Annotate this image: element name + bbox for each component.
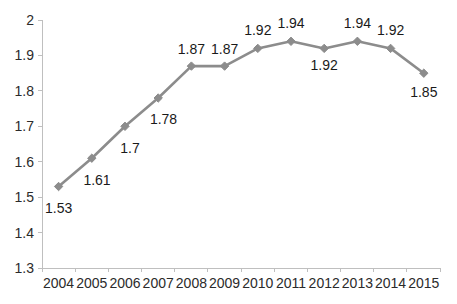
data-point-label: 1.92 [244,22,271,38]
data-point-label: 1.85 [410,84,437,100]
data-point-label: 1.92 [311,57,338,73]
x-tick-label: 2014 [375,275,406,291]
data-point-label: 1.94 [277,15,304,31]
line-chart: 21.91.81.71.61.51.41.3 20042005200620072… [0,0,457,304]
data-point-marker [320,44,328,52]
y-tick-label: 2 [26,12,34,28]
y-tick-label: 1.6 [15,154,35,170]
x-tick-label: 2005 [76,275,107,291]
data-point-label: 1.7 [120,140,140,156]
x-axis-tick-labels: 2004200520062007200820092010201120122013… [43,275,440,291]
data-point-marker [353,37,361,45]
x-tick-label: 2013 [342,275,373,291]
series-markers [54,37,428,191]
chart-canvas: 21.91.81.71.61.51.41.3 20042005200620072… [0,0,457,304]
x-tick-label: 2006 [109,275,140,291]
y-tick-label: 1.8 [15,83,35,99]
x-tick-label: 2015 [408,275,439,291]
data-point-label: 1.87 [178,41,205,57]
y-tick-label: 1.7 [15,118,35,134]
x-tick-label: 2011 [276,275,306,291]
data-point-label: 1.61 [83,172,110,188]
y-axis-tick-labels: 21.91.81.71.61.51.41.3 [15,12,35,276]
x-tick-label: 2012 [309,275,340,291]
x-tick-label: 2004 [43,275,74,291]
x-axis-ticks [42,268,440,272]
data-point-label: 1.78 [150,111,177,127]
y-axis-ticks [38,20,42,268]
y-tick-label: 1.4 [15,225,35,241]
data-point-label: 1.94 [344,15,371,31]
y-tick-label: 1.3 [15,260,35,276]
x-tick-label: 2009 [209,275,240,291]
data-point-label: 1.92 [377,22,404,38]
data-point-marker [287,37,295,45]
y-tick-label: 1.9 [15,47,35,63]
y-tick-label: 1.5 [15,189,35,205]
data-point-label: 1.87 [211,41,238,57]
x-tick-label: 2008 [176,275,207,291]
data-point-label: 1.53 [45,200,72,216]
x-tick-label: 2007 [143,275,174,291]
x-tick-label: 2010 [242,275,273,291]
series-line-path [59,41,424,186]
